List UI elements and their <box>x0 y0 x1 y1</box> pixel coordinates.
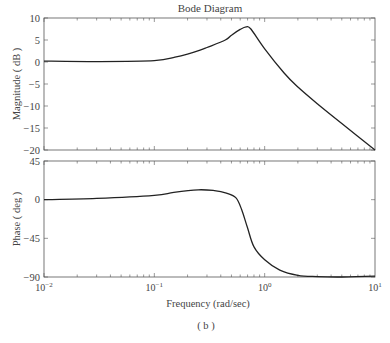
magnitude-tick-label: −5 <box>29 79 40 90</box>
x-tick-label: 10−2 <box>35 281 53 293</box>
phase-curve <box>44 190 375 277</box>
x-tick-label: 100 <box>258 281 272 293</box>
magnitude-axes-box <box>44 18 375 150</box>
x-axis-label: Frequency (rad/sec) <box>166 298 250 310</box>
magnitude-tick-label: 5 <box>35 35 40 46</box>
magnitude-tick-label: −20 <box>24 145 40 156</box>
phase-tick-label: 0 <box>35 194 40 205</box>
x-tick-label: 101 <box>368 281 382 293</box>
phase-tick-label: −90 <box>24 272 40 283</box>
phase-tick-label: −45 <box>24 233 40 244</box>
magnitude-tick-label: 10 <box>30 13 41 24</box>
phase-axis-label: Phase ( deg ) <box>11 191 23 246</box>
chart-title: Bode Diagram <box>178 2 243 14</box>
phase-plot: 450−45−90 <box>24 156 375 283</box>
magnitude-tick-label: −15 <box>24 123 40 134</box>
magnitude-plot: 1050−5−10−15−20 <box>24 13 375 156</box>
magnitude-tick-label: 0 <box>35 57 40 68</box>
figure-caption: ( b ) <box>197 320 215 332</box>
phase-tick-label: 45 <box>30 156 41 167</box>
magnitude-axis-label: Magnitude ( dB ) <box>11 47 23 120</box>
phase-axes-box <box>44 161 375 277</box>
bode-diagram: Bode Diagram 1050−5−10−15−20 450−45−90 M… <box>0 0 390 343</box>
x-tick-labels: 10−210−1100101 <box>35 281 382 293</box>
magnitude-curve <box>44 26 375 150</box>
x-tick-label: 10−1 <box>146 281 164 293</box>
magnitude-tick-label: −10 <box>24 101 40 112</box>
